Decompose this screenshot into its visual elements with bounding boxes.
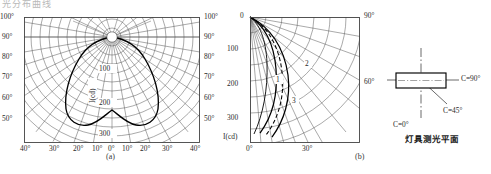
chart-a-bottom-tick-30r: 30°: [162, 144, 172, 153]
chart-a-bottom-tick-10r: 10°: [122, 144, 132, 153]
chart-b-curve-1: [250, 17, 276, 133]
radial-tick-100: 100: [99, 64, 110, 73]
top-cropped-text: 光分布曲线: [2, 0, 52, 10]
chart-a-left-tick-80: 80°: [2, 52, 12, 61]
chart-a-bottom-tick-10l: 10°: [92, 144, 102, 153]
figure-root: 光分布曲线: [0, 0, 491, 174]
chart-b-radial-tick-100: 100: [227, 44, 238, 53]
chart-a-left-tick-70: 70°: [2, 72, 12, 81]
chart-b-radial-axis-label: I(cd): [223, 132, 237, 141]
polar-chart-b: 1 2 3 0 100 200 300 I(cd) 0° 30° 60° 90°: [250, 17, 360, 143]
chart-a-right-tick-80: 80°: [204, 52, 214, 61]
chart-a-left-tick-50: 50°: [2, 114, 12, 123]
luminaire-caption-cn: 灯具测光平面: [405, 132, 459, 144]
chart-a-bottom-tick-40l: 40°: [20, 144, 30, 153]
chart-a-bottom-tick-40r: 40°: [190, 144, 200, 153]
chart-b-radial-tick-0: 0: [240, 11, 244, 20]
luminaire-plane-diagram: C=90° C=45° C=0° 灯具测光平面: [385, 40, 489, 150]
chart-a-left-tick-100: 100°: [0, 12, 14, 21]
chart-a-bottom-tick-20r: 20°: [140, 144, 150, 153]
label-c90: C=90°: [461, 74, 480, 83]
chart-a-bottom-tick-30l: 30°: [49, 144, 59, 153]
chart-a-bottom-tick-20l: 20°: [73, 144, 83, 153]
chart-b-radial-tick-300: 300: [227, 113, 238, 122]
caption-b: (b): [355, 152, 364, 161]
radial-tick-200: 200: [99, 98, 110, 107]
curve-label-1: 1: [276, 75, 280, 84]
chart-a-right-tick-90: 90°: [204, 32, 214, 41]
curve-label-3: 3: [292, 96, 296, 105]
chart-a-left-tick-90: 90°: [2, 32, 12, 41]
chart-b-radial-tick-200: 200: [227, 79, 238, 88]
chart-a-right-tick-50: 50°: [204, 114, 214, 123]
chart-a-radial-axis-label: I(cd): [88, 78, 97, 104]
chart-b-angular-tick-90: 90°: [364, 11, 374, 20]
chart-b-curve-labels: 1 2 3: [275, 59, 312, 105]
chart-b-angular-tick-30: 30°: [302, 144, 312, 153]
chart-a-origin-hub: [107, 32, 117, 42]
polar-chart-a: 100 200 300 I(cd) 100° 90° 80° 70° 60° 5…: [24, 17, 200, 143]
label-c45: C=45°: [443, 106, 462, 115]
svg-text:I(cd): I(cd): [88, 88, 97, 103]
chart-b-angular-tick-60: 60°: [364, 77, 374, 86]
chart-a-right-tick-70: 70°: [204, 72, 214, 81]
curve-label-2: 2: [305, 59, 309, 68]
radial-tick-300: 300: [99, 129, 110, 138]
caption-a: (a): [106, 152, 115, 161]
chart-a-right-tick-60: 60°: [204, 93, 214, 102]
chart-a-left-tick-60: 60°: [2, 93, 12, 102]
label-c0: C=0°: [393, 120, 409, 129]
chart-a-right-tick-100: 100°: [204, 12, 218, 21]
chart-b-angular-tick-0: 0°: [246, 144, 253, 153]
polar-chart-b-svg: 1 2 3: [250, 17, 360, 143]
polar-chart-a-svg: 100 200 300 I(cd): [24, 17, 200, 143]
